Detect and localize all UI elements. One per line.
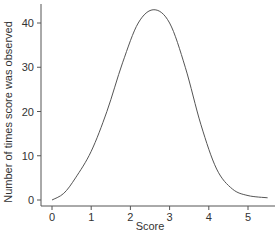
x-tick-label: 5 (245, 211, 251, 223)
x-tick-label: 0 (49, 211, 55, 223)
y-tick-label: 40 (22, 17, 34, 29)
line-chart: 010203040 012345 Score Number of times s… (0, 0, 275, 237)
x-tick-label: 3 (167, 211, 173, 223)
y-axis-label: Number of times score was observed (2, 21, 14, 203)
x-tick-label: 4 (206, 211, 212, 223)
y-tick-label: 10 (22, 150, 34, 162)
x-tick-label: 2 (127, 211, 133, 223)
y-tick-label: 0 (28, 194, 34, 206)
frequency-curve (52, 10, 268, 200)
y-tick-label: 20 (22, 106, 34, 118)
y-axis: 010203040 (22, 4, 41, 206)
y-tick-label: 30 (22, 61, 34, 73)
x-axis-label: Score (136, 220, 165, 232)
x-tick-label: 1 (88, 211, 94, 223)
